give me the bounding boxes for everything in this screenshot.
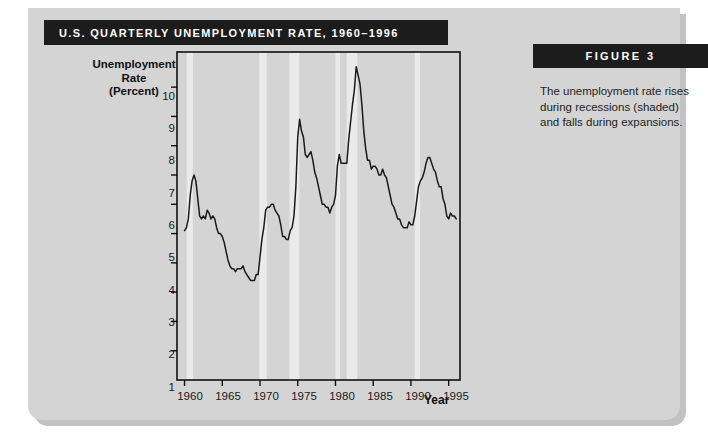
recession-band: [335, 52, 340, 380]
y-axis-ticks: [171, 87, 177, 351]
figure-number-banner: FIGURE 3: [533, 44, 708, 68]
figure-caption-box: FIGURE 3 The unemployment rate rises dur…: [533, 44, 708, 131]
figure-caption-text: The unemployment rate rises during reces…: [533, 84, 708, 131]
chart-title-banner: U.S. Quarterly Unemployment Rate, 1960–1…: [44, 20, 448, 45]
recession-band: [187, 52, 193, 380]
figure-number-label: FIGURE 3: [586, 50, 656, 62]
chart-container: U.S. Quarterly Unemployment Rate, 1960–1…: [28, 8, 680, 420]
chart-title: U.S. Quarterly Unemployment Rate, 1960–1…: [44, 27, 399, 39]
recession-band: [347, 52, 358, 380]
x-axis-ticks: [185, 380, 449, 386]
recession-band: [415, 52, 420, 380]
recession-bands-group: [187, 52, 420, 380]
